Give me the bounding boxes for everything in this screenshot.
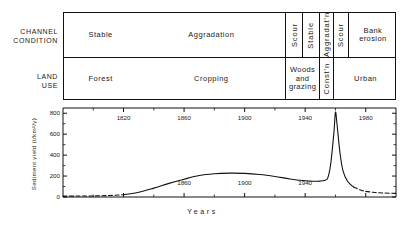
channel-condition-cell: Aggradat'n <box>319 13 333 57</box>
x-tick-label-top: 1980 <box>359 114 373 121</box>
y-tick-label: 400 <box>50 151 61 158</box>
land-use-cell-label: Woodsandgrazing <box>289 66 316 92</box>
land-use-cell-label: Forest <box>88 75 112 84</box>
land-use-cell: Const'n <box>319 58 333 100</box>
condition-landuse-table: StableAggradationScourStableAggradat'nSc… <box>63 12 396 100</box>
channel-condition-caption: CHANNEL CONDITION <box>2 27 58 45</box>
y-tick-label: 200 <box>50 172 61 179</box>
x-tick-label-inner: 1900 <box>238 179 252 186</box>
land-use-caption-line2: USE <box>2 81 58 90</box>
land-use-cell: Woodsandgrazing <box>285 58 318 100</box>
channel-condition-cell-label: Aggradat'n <box>322 12 331 57</box>
plot-area: 0200400600800182018601900194019801860190… <box>0 100 405 225</box>
channel-condition-cell-label: Bankerosion <box>359 27 386 44</box>
figure-root: CHANNEL CONDITION LAND USE StableAggrada… <box>0 0 405 225</box>
channel-condition-caption-line1: CHANNEL <box>2 27 58 36</box>
channel-condition-cell: Stable <box>302 13 319 57</box>
sediment-yield-curve-dashed <box>354 187 396 193</box>
channel-condition-cell: Bankerosion <box>348 13 397 57</box>
x-tick-label-top: 1940 <box>298 114 312 121</box>
channel-condition-cell-label: Scour <box>336 23 345 47</box>
channel-condition-cell: Aggradation <box>137 13 285 57</box>
channel-condition-caption-line2: CONDITION <box>2 36 58 45</box>
land-use-caption: LAND USE <box>2 72 58 90</box>
channel-condition-cell-label: Stable <box>88 31 112 40</box>
x-tick-label-top: 1820 <box>117 114 131 121</box>
land-use-cell: Urban <box>333 58 397 100</box>
x-tick-label-top: 1860 <box>177 114 191 121</box>
y-tick-label: 800 <box>50 109 61 116</box>
channel-condition-cell-label: Stable <box>306 22 315 49</box>
land-use-row: ForestCroppingWoodsandgrazingConst'nUrba… <box>64 57 395 100</box>
land-use-cell: Cropping <box>137 58 285 100</box>
channel-condition-cell: Stable <box>64 13 137 57</box>
land-use-cell: Forest <box>64 58 137 100</box>
land-use-caption-line1: LAND <box>2 72 58 81</box>
sediment-yield-plot: 0200400600800182018601900194019801860190… <box>0 100 405 225</box>
x-tick-label-top: 1900 <box>238 114 252 121</box>
channel-condition-cell-label: Aggradation <box>188 31 234 40</box>
channel-condition-cell-label: Scour <box>290 23 299 47</box>
land-use-cell-label: Cropping <box>194 75 228 84</box>
land-use-cell-label: Urban <box>354 75 377 84</box>
y-tick-label: 600 <box>50 130 61 137</box>
channel-condition-cell: Scour <box>333 13 348 57</box>
y-tick-label: 0 <box>57 193 61 200</box>
channel-condition-cell: Scour <box>285 13 302 57</box>
land-use-cell-label: Const'n <box>322 63 331 95</box>
channel-condition-row: StableAggradationScourStableAggradat'nSc… <box>64 13 395 57</box>
